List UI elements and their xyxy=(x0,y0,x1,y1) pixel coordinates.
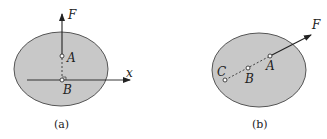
point-b-marker xyxy=(246,66,250,70)
caption-b: (b) xyxy=(252,118,268,131)
point-a-marker xyxy=(268,54,272,58)
point-a-marker xyxy=(60,54,64,58)
caption-a: (a) xyxy=(54,118,69,131)
figure-a: F A B x (a) xyxy=(14,8,133,131)
rigid-body-a xyxy=(14,32,108,106)
point-b-marker xyxy=(60,78,64,82)
point-a-label: A xyxy=(66,51,76,65)
figure-b: F A B C (b) xyxy=(212,18,321,131)
point-a-label: A xyxy=(265,59,275,73)
point-b-label: B xyxy=(62,83,72,97)
force-label-b: F xyxy=(311,18,321,32)
force-label-a: F xyxy=(67,8,77,22)
point-c-label: C xyxy=(217,65,226,79)
point-b-label: B xyxy=(244,72,254,86)
diagram-canvas: F A B x (a) F A B C (b) xyxy=(0,0,327,139)
x-axis-label: x xyxy=(126,66,133,80)
